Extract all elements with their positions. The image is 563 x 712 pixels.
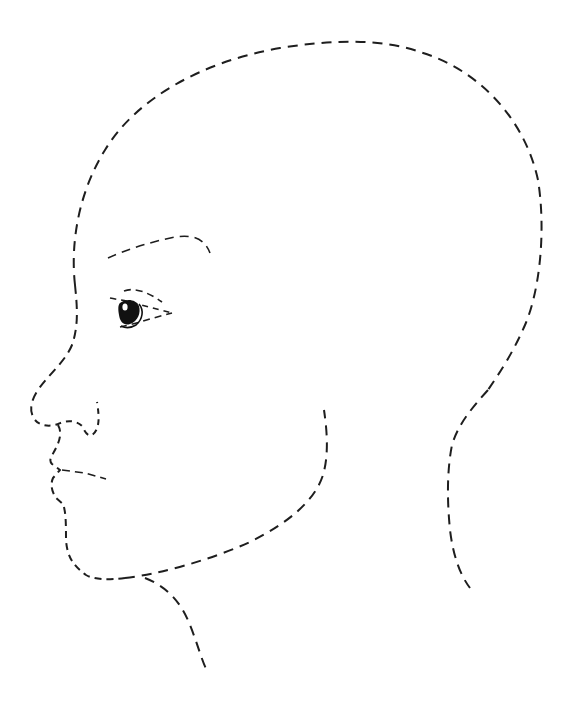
jaw-line — [125, 410, 327, 578]
skull-outline — [74, 42, 542, 390]
eye — [110, 290, 172, 328]
neck-front — [145, 578, 208, 672]
forehead-nose-profile — [31, 285, 77, 420]
neck-back — [448, 390, 488, 588]
illustration-canvas: Dashed-line outline of a human head in l… — [0, 0, 563, 712]
head-profile-drawing — [0, 0, 563, 712]
eyebrow — [108, 236, 210, 258]
nose — [35, 402, 99, 435]
mouth-line — [62, 470, 106, 479]
pupil — [118, 300, 139, 325]
lips-chin — [50, 425, 125, 579]
eye-highlight — [122, 303, 127, 310]
